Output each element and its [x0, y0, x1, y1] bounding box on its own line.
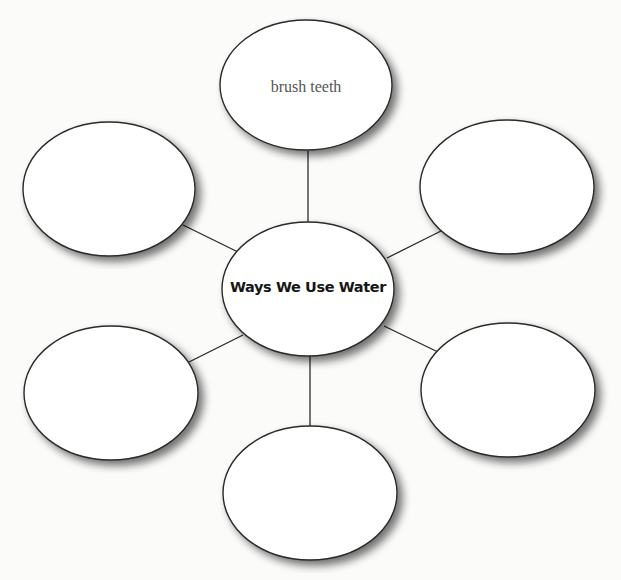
center-ellipse: [222, 222, 394, 356]
node-ellipse-lower-right[interactable]: [421, 323, 595, 457]
connector-line-lower-left: [189, 335, 243, 362]
connector-line-upper-left: [183, 225, 238, 252]
connector-line-upper-right: [387, 231, 441, 258]
node-ellipse-top[interactable]: [220, 20, 392, 150]
connector-line-lower-right: [384, 326, 438, 352]
web-organizer-diagram: Ways We Use Water brush teeth: [0, 0, 621, 580]
node-ellipse-upper-right[interactable]: [420, 120, 594, 254]
node-ellipse-bottom[interactable]: [223, 426, 397, 560]
node-ellipse-upper-left[interactable]: [23, 122, 195, 256]
diagram-graphics: [0, 0, 621, 580]
ellipse-nodes: [23, 20, 595, 560]
node-ellipse-lower-left[interactable]: [24, 326, 198, 460]
